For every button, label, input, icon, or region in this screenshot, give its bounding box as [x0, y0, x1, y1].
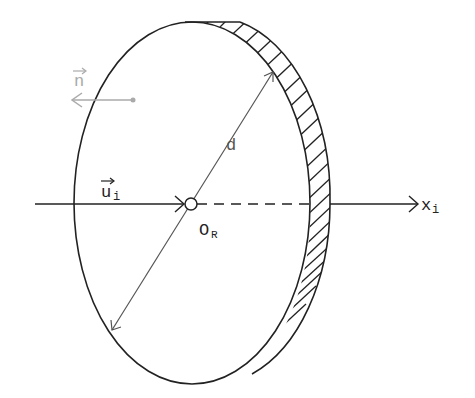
diameter-label: d — [226, 136, 236, 155]
optical-axis — [35, 196, 418, 212]
normal-vector-label: n — [73, 68, 86, 91]
axis-label: x i — [421, 196, 439, 217]
mirror-rim-hatching — [190, 15, 338, 354]
svg-text:u: u — [101, 183, 111, 202]
origin-point — [185, 198, 197, 210]
mirror-back-rim — [240, 22, 330, 374]
incident-vector-label: u i — [101, 178, 120, 204]
mirror-diagram: n d u i O R x i — [0, 0, 475, 398]
normal-vector — [72, 93, 136, 107]
svg-text:R: R — [211, 229, 218, 241]
svg-text:i: i — [432, 203, 439, 217]
svg-text:O: O — [199, 221, 209, 240]
svg-text:n: n — [74, 72, 84, 91]
origin-label: O R — [199, 221, 218, 241]
svg-text:i: i — [113, 190, 120, 204]
svg-text:x: x — [421, 196, 431, 215]
